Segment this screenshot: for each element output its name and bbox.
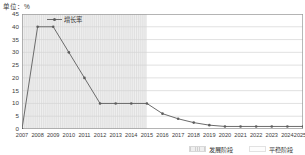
x-axis-tick: 2013	[109, 131, 121, 139]
x-axis-tick: 2007	[16, 131, 28, 139]
data-point	[177, 117, 180, 120]
stable-phase-swatch	[249, 146, 266, 152]
data-point	[68, 51, 71, 54]
growth-rate-line-chart: 单位：% 051015202530354045 增长率 200720082009…	[0, 0, 305, 155]
x-axis-tick: 2011	[78, 131, 90, 139]
data-point	[146, 102, 149, 105]
y-axis-tick: 20	[12, 75, 19, 81]
x-axis-tick: 2014	[125, 131, 137, 139]
phase-legend-item-development: 发展阶段	[189, 145, 233, 154]
x-axis-tick: 2016	[156, 131, 168, 139]
data-point	[83, 77, 86, 80]
data-point	[130, 102, 133, 105]
plot-area	[22, 14, 303, 129]
x-axis-tick: 2025年	[294, 131, 305, 139]
data-point	[208, 124, 211, 127]
data-point	[286, 125, 289, 128]
series-legend: 增长率	[46, 15, 83, 24]
x-axis-tick: 2008	[31, 131, 43, 139]
growth-rate-line-swatch	[47, 19, 62, 20]
x-axis-tick: 2009	[47, 131, 59, 139]
development-phase-label: 发展阶段	[209, 145, 233, 154]
x-axis-tick: 2015	[141, 131, 153, 139]
x-axis-tick: 2021	[234, 131, 246, 139]
y-axis-tick: 10	[12, 100, 19, 106]
data-point	[270, 125, 273, 128]
stable-phase-label: 平稳阶段	[269, 145, 293, 154]
x-axis-tick: 2018	[187, 131, 199, 139]
data-point	[114, 102, 117, 105]
data-point	[224, 125, 227, 128]
y-axis-tick: 30	[12, 49, 19, 55]
data-point	[52, 25, 55, 28]
x-axis-tick-labels: 2007200820092010201120122013201420152016…	[22, 131, 303, 141]
data-point	[161, 112, 164, 115]
x-axis-tick: 2024	[281, 131, 293, 139]
y-axis-tick-labels: 051015202530354045	[0, 14, 21, 129]
x-axis-tick: 2023	[266, 131, 278, 139]
x-axis-tick: 2017	[172, 131, 184, 139]
data-point	[36, 25, 39, 28]
phase-legend: 发展阶段 平稳阶段	[0, 143, 305, 155]
x-axis-tick: 2020	[219, 131, 231, 139]
y-axis-tick: 40	[12, 24, 19, 30]
data-point	[192, 121, 195, 124]
x-axis-tick: 2012	[94, 131, 106, 139]
phase-legend-item-stable: 平稳阶段	[249, 145, 293, 154]
y-axis-tick: 35	[12, 37, 19, 43]
data-point	[99, 102, 102, 105]
x-axis-tick: 2019	[203, 131, 215, 139]
phase-region-0	[22, 14, 147, 129]
y-axis-tick: 25	[12, 62, 19, 68]
phase-region-1	[147, 14, 303, 129]
development-phase-swatch	[189, 146, 206, 152]
plot-svg	[22, 14, 303, 129]
data-point	[255, 125, 258, 128]
series-legend-label: 增长率	[64, 15, 82, 24]
x-axis-tick: 2022	[250, 131, 262, 139]
x-axis-tick: 2010	[63, 131, 75, 139]
y-axis-tick: 5	[16, 113, 19, 119]
y-axis-tick: 15	[12, 88, 19, 94]
y-axis-tick: 45	[12, 11, 19, 17]
data-point	[239, 125, 242, 128]
